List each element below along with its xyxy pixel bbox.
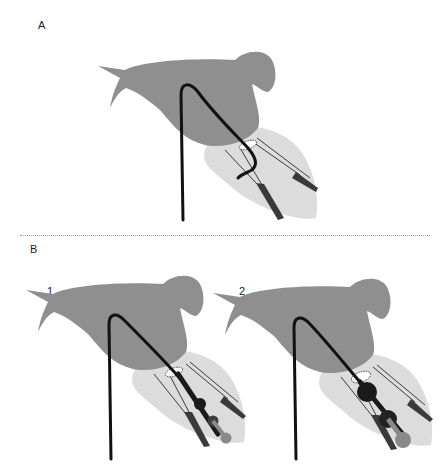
balloon-distal xyxy=(221,433,232,444)
diagram-canvas xyxy=(0,0,447,471)
balloon-proximal xyxy=(194,398,206,410)
panel-a-diagram xyxy=(98,52,318,220)
left-atrium xyxy=(26,276,203,370)
panel-b2-diagram xyxy=(213,279,433,459)
balloon-proximal xyxy=(357,382,377,402)
left-atrium xyxy=(213,279,390,373)
balloon-distal xyxy=(395,432,411,448)
panel-b1-diagram xyxy=(26,276,246,459)
left-atrium xyxy=(98,52,275,146)
